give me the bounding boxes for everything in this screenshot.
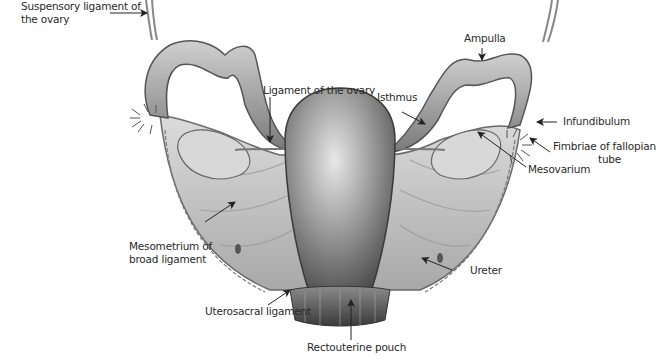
suspensory-vessels-left: [146, 0, 157, 40]
uterus: [285, 88, 395, 295]
label-mesometrium: Mesometrium of broad ligament: [129, 240, 212, 266]
label-isthmus: Isthmus: [377, 91, 417, 104]
uterus-illustration: [0, 0, 662, 361]
label-infundibulum: Infundibulum: [563, 115, 630, 128]
label-ampulla: Ampulla: [464, 32, 506, 45]
label-mesovarium: Mesovarium: [528, 163, 590, 176]
suspensory-vessels-right: [543, 0, 558, 42]
label-rectouterine-pouch: Rectouterine pouch: [307, 341, 406, 354]
anatomy-diagram: Suspensory ligament of the ovary Ligamen…: [0, 0, 662, 361]
label-ureter: Ureter: [470, 264, 502, 277]
label-ligament-of-ovary: Ligament of the ovary: [263, 84, 375, 97]
label-suspensory-ligament: Suspensory ligament of the ovary: [21, 0, 141, 26]
label-uterosacral-ligament: Uterosacral ligament: [205, 305, 311, 318]
